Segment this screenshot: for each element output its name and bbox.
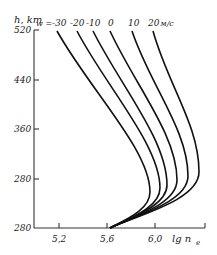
x-axis-subscript: e <box>196 239 200 247</box>
legend-prefix: w = <box>36 19 52 28</box>
series-label: -30 <box>52 18 67 28</box>
series-lines <box>57 31 199 228</box>
y-tick-label: 440 <box>13 75 31 85</box>
x-axis-title: lg n <box>172 233 191 244</box>
series-label: 20 <box>147 18 160 28</box>
y-tick-label: 520 <box>14 25 31 35</box>
y-tick-label: 280 <box>13 223 31 233</box>
legend-unit: м/с <box>160 19 174 28</box>
series-label: -20 <box>70 18 85 28</box>
x-tick-label: 5,2 <box>52 234 67 244</box>
y-tick-label: 360 <box>14 124 31 134</box>
curve-minus-30 <box>57 31 150 228</box>
y-tick-label: 280 <box>13 174 31 184</box>
series-label: -10 <box>86 18 101 28</box>
series-label: 10 <box>128 18 140 28</box>
chart: 520 440 360 280 280 5,2 5,6 6,0 h, km lg… <box>0 0 217 255</box>
series-label: 0 <box>108 18 114 28</box>
x-tick-label: 5,6 <box>100 234 115 244</box>
curve-minus-20 <box>77 31 160 228</box>
x-tick-label: 6,0 <box>148 234 163 244</box>
